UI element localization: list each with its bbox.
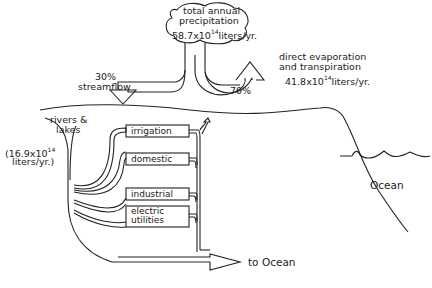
precipitation-label-line2: precipitation	[179, 16, 239, 26]
irrigation-label: irrigation	[131, 127, 172, 136]
industrial-label: industrial	[131, 190, 173, 199]
rivers-label-line2: lakes	[56, 125, 80, 135]
ocean-label: Ocean	[370, 180, 404, 190]
evaporation-value: 41.8x1014liters/yr.	[285, 73, 370, 87]
land-surface	[40, 105, 408, 232]
precipitation-value: 58.7x1014liters/yr.	[172, 27, 257, 41]
to-ocean-label: to Ocean	[248, 257, 295, 267]
rivers-value-line2: liters/yr.)	[12, 157, 54, 167]
evaporation-label-line2: and transpiration	[279, 62, 361, 72]
evaporation-percent: 70%	[230, 86, 251, 96]
streamflow-label: streamflow	[78, 82, 131, 92]
evaporation-arrowhead	[236, 62, 264, 80]
ocean-waves	[340, 151, 430, 158]
electric-utilities-label-line2: utilities	[131, 216, 164, 225]
domestic-label: domestic	[131, 155, 172, 164]
water-cycle-drawing	[0, 0, 432, 288]
